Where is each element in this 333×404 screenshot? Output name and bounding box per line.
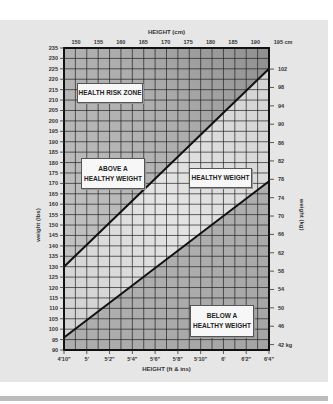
y2-tick-label: 62 <box>278 250 284 256</box>
x-tick-label: 4'10" <box>57 356 70 362</box>
zone-label-healthy: HEALTHY WEIGHT <box>189 168 252 188</box>
top-tick-label: 180 <box>206 39 215 45</box>
y-tick-label: 150 <box>49 222 58 228</box>
y-tick-label: 115 <box>49 295 58 301</box>
x-tick-label: 5' <box>85 356 90 362</box>
y-tick-label: 195 <box>49 128 58 134</box>
y2-tick-label: 74 <box>278 195 285 201</box>
y-tick-label: 230 <box>49 55 58 61</box>
y-tick-label: 130 <box>49 264 58 270</box>
y-tick-label: 175 <box>49 170 58 176</box>
y2-tick-label: 54 <box>278 286 285 292</box>
y-tick-label: 140 <box>49 243 58 249</box>
y-tick-label: 155 <box>49 212 58 218</box>
zone-label-text: HEALTH RISK ZONE <box>78 88 141 98</box>
top-tick-label: 155 <box>94 39 103 45</box>
top-tick-label: 160 <box>116 39 125 45</box>
y-tick-label: 135 <box>49 253 58 259</box>
y-tick-label: 145 <box>49 232 58 238</box>
y-tick-label: 200 <box>49 118 58 124</box>
zone-label-above-healthy: ABOVE A HEALTHY WEIGHT <box>81 158 145 189</box>
zone-label-below-healthy: BELOW A HEALTHY WEIGHT <box>190 305 254 337</box>
right-axis-title: weight (kg) <box>299 198 305 231</box>
top-axis-title: HEIGHT (cm) <box>148 29 185 35</box>
bmi-chart: 2352302252202152102052001951901851801751… <box>0 0 333 404</box>
y2-tick-label: 70 <box>278 213 284 219</box>
y2-tick-label: 58 <box>278 268 284 274</box>
y-tick-label: 210 <box>49 97 58 103</box>
y2-tick-label: 78 <box>278 176 284 182</box>
y-tick-label: 215 <box>49 87 58 93</box>
y2-tick-label: 42 kg <box>278 342 292 348</box>
y-tick-label: 170 <box>49 180 58 186</box>
y-tick-label: 220 <box>49 76 58 82</box>
y-tick-label: 235 <box>49 45 58 51</box>
x-tick-label: 6'2" <box>241 356 251 362</box>
y-tick-label: 95 <box>52 337 58 343</box>
y-tick-label: 105 <box>49 316 58 322</box>
x-tick-label: 6' <box>221 356 226 362</box>
zone-label-health-risk: HEALTH RISK ZONE <box>77 83 143 103</box>
y-tick-label: 125 <box>49 274 58 280</box>
x-tick-label: 5'8" <box>173 356 183 362</box>
y2-tick-label: 46 <box>278 323 284 329</box>
y-tick-label: 225 <box>49 66 58 72</box>
left-axis-title: weight (lbs) <box>35 208 41 242</box>
y2-tick-label: 50 <box>278 305 284 311</box>
y2-tick-label: 86 <box>278 140 284 146</box>
x-tick-label: 6'4" <box>264 356 274 362</box>
y-tick-label: 185 <box>49 149 58 155</box>
y2-tick-label: 94 <box>278 103 285 109</box>
zone-label-text: HEALTHY WEIGHT <box>84 174 142 184</box>
y-tick-label: 165 <box>49 191 58 197</box>
x-tick-label: 5'4" <box>127 356 137 362</box>
top-tick-label: 190 <box>251 39 260 45</box>
zone-label-text: ABOVE A <box>98 164 127 174</box>
y2-tick-label: 66 <box>278 231 284 237</box>
y-tick-label: 205 <box>49 107 58 113</box>
top-tick-label: 150 <box>71 39 80 45</box>
x-tick-label: 5'2" <box>105 356 115 362</box>
y2-tick-label: 82 <box>278 158 284 164</box>
x-tick-label: 5'10" <box>194 356 207 362</box>
top-tick-label: 185 <box>228 39 237 45</box>
zone-label-text: HEALTHY WEIGHT <box>193 321 251 331</box>
y2-tick-label: 90 <box>278 121 284 127</box>
footer-divider <box>0 396 328 401</box>
top-tick-label: 175 <box>184 39 193 45</box>
y2-tick-label: 98 <box>278 84 284 90</box>
top-tick-label: 170 <box>161 39 170 45</box>
top-tick-label: 195 cm <box>274 39 293 45</box>
top-tick-label: 165 <box>139 39 148 45</box>
y-tick-label: 160 <box>49 201 58 207</box>
y-tick-label: 110 <box>49 305 58 311</box>
zone-label-text: BELOW A <box>207 311 237 321</box>
y2-tick-label: 102 <box>278 66 287 72</box>
y-tick-label: 120 <box>49 285 58 291</box>
x-tick-label: 5'6" <box>150 356 160 362</box>
y-tick-label: 190 <box>49 139 58 145</box>
y-tick-label: 90 <box>52 347 58 353</box>
zone-label-text: HEALTHY WEIGHT <box>192 173 250 183</box>
y-tick-label: 180 <box>49 160 58 166</box>
y-tick-label: 100 <box>49 326 58 332</box>
bottom-axis-title: HEIGHT (ft & ins) <box>142 366 191 372</box>
